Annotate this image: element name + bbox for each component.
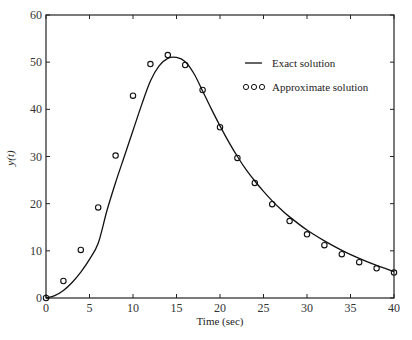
y-tick-label: 40 xyxy=(30,102,42,116)
y-tick-label: 60 xyxy=(30,8,42,22)
x-tick-label: 40 xyxy=(388,301,400,315)
x-tick-labels: 0510152025303540 xyxy=(43,301,400,315)
legend-circles-icon xyxy=(243,84,264,89)
x-tick-label: 30 xyxy=(301,301,313,315)
data-point-marker xyxy=(270,201,275,206)
data-point-marker xyxy=(287,218,292,223)
y-tick-label: 0 xyxy=(36,291,42,305)
plot-border xyxy=(46,15,394,298)
legend-label-exact: Exact solution xyxy=(272,57,336,69)
legend-label-approximate: Approximate solution xyxy=(272,81,369,93)
y-tick-label: 20 xyxy=(30,197,42,211)
data-point-marker xyxy=(96,205,101,210)
exact-solution-line xyxy=(46,57,394,298)
x-tick-label: 5 xyxy=(87,301,93,315)
y-tick-label: 10 xyxy=(30,244,42,258)
axis-ticks xyxy=(46,15,394,298)
x-tick-label: 0 xyxy=(43,301,49,315)
data-point-marker xyxy=(374,266,379,271)
x-axis-label: Time (sec) xyxy=(197,315,244,328)
data-point-marker xyxy=(165,52,170,57)
x-tick-label: 25 xyxy=(258,301,270,315)
y-tick-labels: 0102030405060 xyxy=(30,8,42,305)
data-point-marker xyxy=(130,93,135,98)
x-tick-label: 20 xyxy=(214,301,226,315)
plot-frame xyxy=(46,15,394,298)
y-tick-label: 30 xyxy=(30,150,42,164)
x-tick-label: 35 xyxy=(345,301,357,315)
legend: Exact solution Approximate solution xyxy=(243,57,368,93)
data-point-marker xyxy=(339,251,344,256)
legend-item-approximate: Approximate solution xyxy=(243,81,368,93)
data-point-marker xyxy=(113,153,118,158)
x-tick-label: 15 xyxy=(171,301,183,315)
data-point-marker xyxy=(183,62,188,67)
chart: 0510152025303540 0102030405060 Time (sec… xyxy=(0,0,412,340)
data-point-marker xyxy=(322,242,327,247)
data-point-marker xyxy=(78,247,83,252)
y-tick-label: 50 xyxy=(30,55,42,69)
legend-item-exact: Exact solution xyxy=(245,57,336,69)
data-point-marker xyxy=(61,278,66,283)
y-axis-label: y(t) xyxy=(4,150,17,167)
data-point-marker xyxy=(357,259,362,264)
data-point-marker xyxy=(148,61,153,66)
x-tick-label: 10 xyxy=(127,301,139,315)
data-point-marker xyxy=(304,232,309,237)
